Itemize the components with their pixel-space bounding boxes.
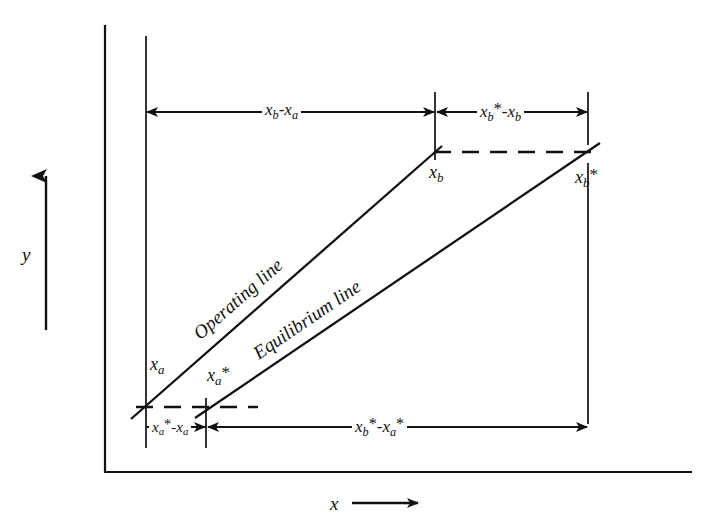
diagram-canvas: y x xb-xa xb*-xb xa*-xa xb*-xa* xb xb* x… [0, 0, 703, 530]
top-right-dimension-label: xb*-xb [477, 101, 524, 123]
axis-frame [104, 25, 692, 472]
point-label-xa: xa [150, 355, 164, 377]
y-axis-label: y [22, 245, 30, 264]
dim-term-2: xb [507, 102, 521, 121]
dim-term-1: xb* [480, 102, 502, 121]
dim-term-1: xb [265, 100, 279, 119]
point-label-xb: xb [429, 163, 443, 185]
dim-term-1: xb* [355, 417, 377, 436]
point-label-xb-star: xb* [575, 166, 598, 190]
dim-term-1: xa* [152, 419, 171, 435]
point-label-xa-star: xa* [207, 364, 230, 388]
dim-term-2: xa [176, 419, 188, 435]
top-left-dimension-label: xb-xa [262, 101, 301, 121]
diagram-svg [0, 0, 703, 530]
bottom-left-dimension-label: xa*-xa [149, 417, 191, 437]
x-axis-label: x [330, 494, 338, 513]
bottom-right-dimension-label: xb*-xa* [352, 416, 407, 438]
dim-term-2: xa [284, 100, 298, 119]
dim-term-2: xa* [382, 417, 404, 436]
